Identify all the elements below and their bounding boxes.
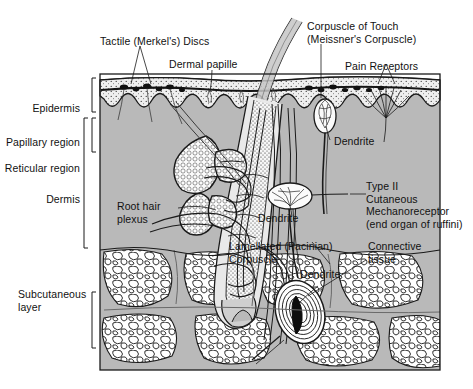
layer-brackets <box>84 78 96 348</box>
skin-block <box>84 18 440 370</box>
bracket-subcutaneous <box>92 292 96 348</box>
bracket-papillary <box>92 118 96 152</box>
skin-cross-section-illustration <box>0 0 473 389</box>
bracket-dermis <box>84 118 88 248</box>
figure-canvas: Epidermis Papillary region Reticular reg… <box>0 0 473 389</box>
bracket-epidermis <box>92 78 96 112</box>
